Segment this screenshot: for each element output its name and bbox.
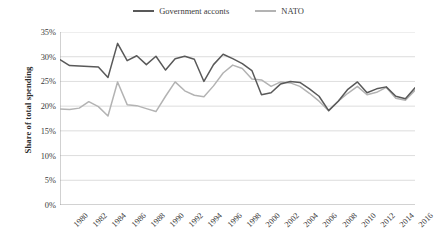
x-axis-tick-label: 1986 — [129, 211, 147, 229]
x-axis-tick-label: 1996 — [225, 211, 243, 229]
x-axis-tick-label: 1994 — [206, 211, 224, 229]
x-axis-tick-label: 1998 — [245, 211, 263, 229]
x-axis-tick-label: 2014 — [398, 211, 416, 229]
x-axis-tick-label: 2006 — [321, 211, 339, 229]
x-axis-tick-label: 1980 — [72, 211, 90, 229]
x-axis-tick-label: 1984 — [110, 211, 128, 229]
x-axis-tick-label: 2010 — [360, 211, 378, 229]
x-axis-tick-label: 1982 — [91, 211, 109, 229]
x-axis-tick-label: 1988 — [149, 211, 167, 229]
x-axis-tick-label: 2004 — [302, 211, 320, 229]
x-axis-tick-label: 2008 — [341, 211, 359, 229]
x-axis-tick-labels: 1980198219841986198819901992199419961998… — [0, 0, 437, 244]
chart-container: Government acconts NATO Share of total s… — [0, 0, 437, 244]
x-axis-tick-label: 2002 — [283, 211, 301, 229]
x-axis-tick-label: 2000 — [264, 211, 282, 229]
x-axis-tick-label: 1990 — [168, 211, 186, 229]
x-axis-tick-label: 1992 — [187, 211, 205, 229]
x-axis-tick-label: 2012 — [379, 211, 397, 229]
x-axis-tick-label: 2016 — [417, 211, 435, 229]
